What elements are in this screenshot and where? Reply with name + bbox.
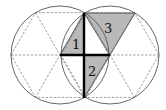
geometry-figure: 1 2 3 xyxy=(0,0,166,110)
diagram-canvas: 1 2 3 xyxy=(0,0,166,110)
label-3: 3 xyxy=(104,21,112,36)
label-1: 1 xyxy=(72,37,80,52)
label-2: 2 xyxy=(88,64,96,79)
